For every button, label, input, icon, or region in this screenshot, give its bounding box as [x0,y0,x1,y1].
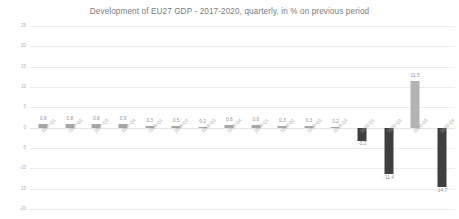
bar-slot[interactable]: 0.52018-Q2 [163,26,190,209]
bar-slot[interactable]: 0.82017-Q3 [83,26,110,209]
bar-value-label: -3.2 [358,142,366,147]
bar-slot[interactable]: 0.82017-Q1 [30,26,57,209]
bar-value-label: 0.6 [252,118,259,123]
bar-slot[interactable]: 0.32019-Q3 [296,26,323,209]
bar-value-label: 0.8 [67,117,74,122]
bar-slot[interactable]: 0.32019-Q2 [269,26,296,209]
gdp-bar-chart: Development of EU27 GDP - 2017-2020, qua… [0,0,459,219]
y-tick-label: 10 [21,85,26,90]
y-tick-label: 0 [23,125,26,130]
y-tick-label: -5 [22,146,26,151]
y-tick-label: -15 [19,186,26,191]
bar-slot[interactable]: 0.92017-Q4 [110,26,137,209]
x-category-label: 2020-Q4 [440,118,456,134]
bar-value-label: 0.8 [93,117,100,122]
bar-series: 0.82017-Q10.82017-Q20.82017-Q30.92017-Q4… [30,26,455,209]
bar-slot[interactable]: 0.62018-Q4 [216,26,243,209]
bar-slot[interactable]: -3.22020-Q1 [349,26,376,209]
bar[interactable] [437,128,446,188]
y-tick-label: 20 [21,44,26,49]
bar-slot[interactable]: 0.62019-Q1 [243,26,270,209]
y-tick-label: -20 [19,207,26,212]
x-category-label: 2020-Q2 [387,118,403,134]
bar[interactable] [384,128,393,174]
bar[interactable] [411,81,420,128]
y-tick-label: 25 [21,24,26,29]
bar-slot[interactable]: 0.82017-Q2 [57,26,84,209]
bar-value-label: 0.6 [226,118,233,123]
x-category-label: 2020-Q1 [360,118,376,134]
bar-slot[interactable]: 0.22018-Q3 [189,26,216,209]
bar-value-label: 0.8 [40,117,47,122]
plot-area: 2520151050-5-10-15-20 0.82017-Q10.82017-… [30,26,455,209]
bar-slot[interactable]: -11.42020-Q2 [375,26,402,209]
y-tick-label: 15 [21,64,26,69]
bar-value-label: -14.7 [436,189,447,194]
bar-value-label: 0.5 [173,119,180,124]
bar-value-label: -11.4 [383,176,394,181]
bar-value-label: 11.5 [411,74,420,79]
y-tick-label: -10 [19,166,26,171]
y-tick-label: 5 [23,105,26,110]
bar-slot[interactable]: 0.22019-Q4 [322,26,349,209]
bar-value-label: 0.9 [120,117,127,122]
bar-slot[interactable]: 11.52020-Q3 [402,26,429,209]
bar-slot[interactable]: -14.72020-Q4 [428,26,455,209]
bar-value-label: 0.3 [146,119,153,124]
gridline [30,209,455,210]
chart-title: Development of EU27 GDP - 2017-2020, qua… [0,7,459,16]
bar-slot[interactable]: 0.32018-Q1 [136,26,163,209]
